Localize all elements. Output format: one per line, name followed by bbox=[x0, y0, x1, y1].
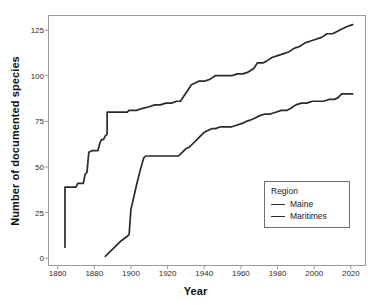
x-tick-label: 1960 bbox=[232, 269, 250, 278]
y-tick-label: 125 bbox=[31, 26, 44, 35]
y-tick-label: 50 bbox=[35, 162, 44, 171]
y-axis-title: Number of documented species bbox=[9, 16, 21, 266]
legend-item-maritimes[interactable]: Maritimes bbox=[271, 211, 343, 221]
plot-panel-border bbox=[49, 16, 366, 266]
legend: Region Maine Maritimes bbox=[264, 181, 350, 228]
x-tick-label: 1980 bbox=[269, 269, 287, 278]
x-tick-label: 1920 bbox=[159, 269, 177, 278]
legend-line-swatch-maine bbox=[271, 204, 285, 205]
x-tick-label: 1860 bbox=[49, 269, 67, 278]
x-tick-label: 1900 bbox=[122, 269, 140, 278]
x-tick-label: 1940 bbox=[195, 269, 213, 278]
x-axis-title: Year bbox=[0, 285, 391, 297]
y-tick-label: 75 bbox=[35, 117, 44, 126]
legend-label-maritimes: Maritimes bbox=[290, 211, 327, 221]
x-tick-label: 2020 bbox=[342, 269, 360, 278]
y-axis-tick-marks bbox=[45, 30, 49, 258]
x-tick-label: 2000 bbox=[305, 269, 323, 278]
x-tick-label: 1880 bbox=[85, 269, 103, 278]
y-tick-label: 100 bbox=[31, 71, 44, 80]
species-accumulation-chart: 186018801900192019401960198020002020 025… bbox=[0, 0, 391, 305]
legend-item-maine[interactable]: Maine bbox=[271, 199, 343, 209]
legend-line-swatch-maritimes bbox=[271, 216, 285, 217]
legend-label-maine: Maine bbox=[290, 199, 313, 209]
plot-canvas bbox=[0, 0, 391, 305]
y-tick-label: 25 bbox=[35, 208, 44, 217]
legend-title: Region bbox=[271, 186, 343, 196]
y-tick-label: 0 bbox=[40, 254, 44, 263]
